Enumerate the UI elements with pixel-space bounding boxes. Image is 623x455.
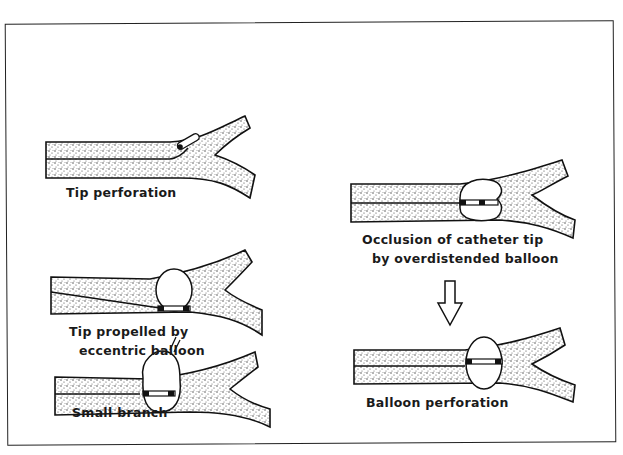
caption-tip-propelled: Tip propelled by eccentric balloon <box>69 322 205 360</box>
caption-small-branch: Small branch <box>72 403 168 422</box>
vessel-occlusion <box>351 160 575 238</box>
down-arrow-icon <box>438 281 462 325</box>
caption-line: Occlusion of catheter tip <box>362 230 559 249</box>
caption-line: eccentric balloon <box>69 341 205 360</box>
caption-occlusion: Occlusion of catheter tip by overdistend… <box>362 230 559 268</box>
diagram-canvas <box>0 0 623 455</box>
vessel-balloon-perforation <box>354 328 575 402</box>
caption-balloon-perforation: Balloon perforation <box>366 393 509 412</box>
caption-line: Balloon perforation <box>366 393 509 412</box>
caption-tip-perforation: Tip perforation <box>66 183 177 202</box>
caption-line: Small branch <box>72 403 168 422</box>
caption-line: Tip perforation <box>66 183 177 202</box>
caption-line: Tip propelled by <box>69 322 205 341</box>
caption-line: by overdistended balloon <box>362 249 559 268</box>
